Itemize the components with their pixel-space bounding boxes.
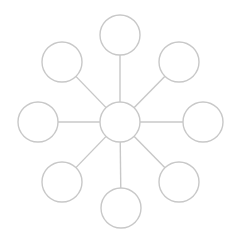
spoke-bottom-left <box>76 136 106 167</box>
nodes <box>18 15 223 228</box>
node-bottom <box>101 188 141 228</box>
spoke-bottom-right <box>134 136 165 167</box>
hub-spoke-diagram <box>0 0 239 243</box>
node-left <box>18 102 58 142</box>
hub-node <box>100 102 140 142</box>
node-top <box>100 15 140 55</box>
node-top-right <box>159 42 199 82</box>
spoke-top-left <box>76 76 106 107</box>
node-right <box>183 102 223 142</box>
node-bottom-left <box>42 162 82 202</box>
node-top-left <box>42 42 82 82</box>
spoke-bottom <box>120 142 121 188</box>
node-bottom-right <box>159 162 199 202</box>
spoke-top-right <box>134 76 165 107</box>
